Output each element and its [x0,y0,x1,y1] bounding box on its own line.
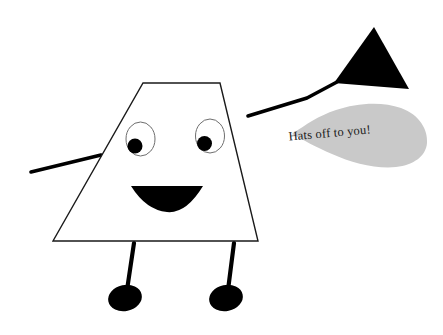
cartoon-illustration: Hats off to you! [0,0,443,335]
illustration-canvas: Hats off to you! [0,0,443,335]
left-pupil [128,139,143,154]
right-pupil [197,136,212,151]
